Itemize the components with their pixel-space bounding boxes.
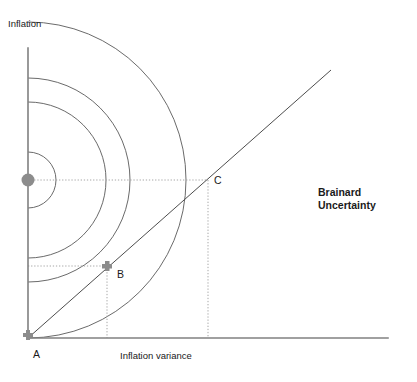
- point-markers: [22, 174, 113, 341]
- indifference-arc-3: [28, 78, 130, 282]
- point-a-label: A: [33, 348, 40, 361]
- policy-ray: [28, 70, 331, 338]
- brainard-uncertainty-annotation: Brainard Uncertainty: [318, 186, 376, 212]
- point-b-marker: [102, 261, 112, 271]
- arc-center-dot: [22, 174, 35, 187]
- brainard-annotation-line-2: Uncertainty: [318, 199, 376, 212]
- brainard-uncertainty-diagram: Inflation Inflation variance A B C Brain…: [0, 0, 417, 382]
- point-c-label: C: [214, 174, 222, 187]
- y-axis-label: Inflation: [8, 18, 41, 30]
- brainard-annotation-line-1: Brainard: [318, 186, 376, 199]
- point-b-label: B: [117, 268, 124, 281]
- x-axis-label: Inflation variance: [120, 350, 192, 362]
